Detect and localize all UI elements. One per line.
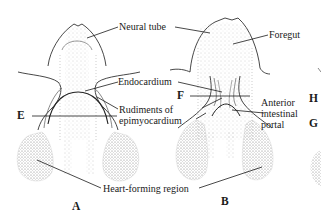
panel-label-a: A	[72, 200, 80, 212]
section-marker-h: H	[309, 92, 318, 104]
label-rudiments-line1: Rudiments of	[119, 104, 173, 115]
panel-b-embryo	[170, 18, 273, 180]
label-anterior-line1: Anterior	[261, 97, 295, 108]
section-marker-f: F	[177, 89, 184, 101]
label-rudiments-line2: epimyocardium	[119, 115, 182, 126]
panel-label-b: B	[221, 195, 229, 207]
section-marker-e: E	[17, 109, 25, 121]
label-anterior-line2: intestinal	[261, 108, 298, 119]
label-heart-forming-region: Heart-forming region	[103, 183, 189, 194]
label-anterior-line3: portal	[261, 119, 284, 130]
label-neural-tube: Neural tube	[119, 21, 166, 32]
panel-a-embryo	[17, 24, 140, 181]
label-foregut: Foregut	[269, 29, 300, 40]
section-marker-g: G	[309, 117, 318, 129]
label-endocardium: Endocardium	[118, 76, 172, 87]
